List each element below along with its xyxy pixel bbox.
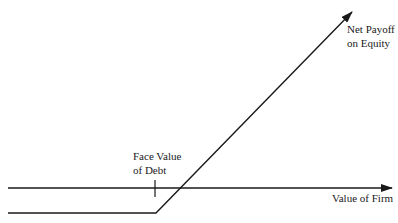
net-payoff-label-line1: Net Payoff (347, 22, 395, 36)
x-axis-label: Value of Firm (332, 191, 393, 205)
net-payoff-label-line2: on Equity (347, 36, 395, 50)
face-value-label-line1: Face Value (133, 149, 181, 163)
face-value-label: Face Value of Debt (133, 149, 181, 177)
net-payoff-label: Net Payoff on Equity (347, 22, 395, 50)
equity-payoff-diagram (0, 0, 398, 223)
x-axis-label-text: Value of Firm (332, 191, 393, 205)
face-value-label-line2: of Debt (133, 163, 181, 177)
net-payoff-line (8, 12, 352, 213)
